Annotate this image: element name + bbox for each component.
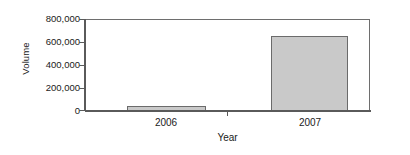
bar-chart: Volume 800,000 600,000 400,000 200,000 0… — [0, 0, 410, 155]
bars-layer — [85, 19, 370, 111]
x-axis-line — [85, 110, 371, 112]
x-tick-label-2006: 2006 — [155, 117, 177, 129]
y-tick-label-400000: 400,000 — [26, 60, 80, 70]
y-tick-label-200000: 200,000 — [26, 83, 80, 93]
x-axis-tick-labels: 2006 2007 — [85, 117, 370, 131]
y-tick-label-800000: 800,000 — [26, 14, 80, 24]
y-tick-label-600000: 600,000 — [26, 37, 80, 47]
x-tick-mark-middle — [227, 111, 228, 116]
y-axis-tick-labels: 800,000 600,000 400,000 200,000 0 — [26, 14, 80, 111]
y-tick-label-0: 0 — [26, 106, 80, 116]
bar-2007[interactable] — [271, 36, 348, 111]
x-tick-label-2007: 2007 — [299, 117, 321, 129]
x-axis-title: Year — [85, 132, 370, 144]
